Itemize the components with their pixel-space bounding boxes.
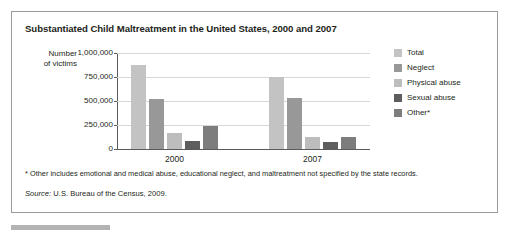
legend-item-neglect: Neglect (394, 60, 494, 75)
legend-swatch (394, 109, 402, 117)
y-axis-title-line-1: Number (25, 49, 77, 59)
y-tick-label: 0 (109, 145, 113, 153)
x-tick-label-2007: 2007 (293, 154, 333, 164)
figure-title: Substantiated Child Maltreatment in the … (25, 23, 337, 34)
gridline (117, 53, 370, 54)
y-tick-label: 500,000 (84, 97, 113, 105)
plot-area: 0250,000500,000750,0001,000,000 20002007 (117, 53, 370, 149)
legend-label: Sexual abuse (407, 93, 455, 102)
legend-swatch (394, 49, 402, 57)
y-tick-mark (114, 149, 117, 150)
legend-swatch (394, 79, 402, 87)
y-tick-mark (114, 77, 117, 78)
legend-label: Other* (407, 108, 430, 117)
y-axis-title-line-2: of victims (25, 59, 77, 69)
legend-label: Physical abuse (407, 78, 461, 87)
bar-sexual-abuse-2000 (185, 141, 200, 149)
y-axis-title: Number of victims (25, 49, 77, 69)
legend-item-total: Total (394, 45, 494, 60)
y-tick-mark (114, 125, 117, 126)
x-axis-line (117, 149, 370, 150)
bar-physical-abuse-2000 (167, 133, 182, 149)
bar-total-2000 (131, 65, 146, 149)
legend-swatch (394, 94, 402, 102)
source-label: Source: (25, 189, 51, 198)
legend: TotalNeglectPhysical abuseSexual abuseOt… (394, 45, 494, 120)
bar-neglect-2000 (149, 99, 164, 149)
legend-label: Total (407, 48, 424, 57)
y-tick-label: 250,000 (84, 121, 113, 129)
legend-item-physical-abuse: Physical abuse (394, 75, 494, 90)
legend-swatch (394, 64, 402, 72)
bar-other-2000 (203, 126, 218, 149)
y-tick-label: 750,000 (84, 73, 113, 81)
bar-neglect-2007 (287, 98, 302, 149)
y-tick-label: 1,000,000 (77, 49, 113, 57)
footnote: * Other includes emotional and medical a… (25, 169, 418, 178)
bar-physical-abuse-2007 (305, 137, 320, 149)
gridline (117, 77, 370, 78)
source-value: U.S. Bureau of the Census, 2009. (51, 189, 167, 198)
bar-total-2007 (269, 77, 284, 149)
legend-item-sexual-abuse: Sexual abuse (394, 90, 494, 105)
legend-item-other: Other* (394, 105, 494, 120)
bottom-rule (11, 225, 110, 230)
bar-other-2007 (341, 137, 356, 149)
y-tick-mark (114, 101, 117, 102)
legend-label: Neglect (407, 63, 434, 72)
source-note: Source: U.S. Bureau of the Census, 2009. (25, 189, 167, 198)
bar-sexual-abuse-2007 (323, 142, 338, 149)
y-tick-mark (114, 53, 117, 54)
x-tick-label-2000: 2000 (155, 154, 195, 164)
figure-card: Substantiated Child Maltreatment in the … (11, 11, 498, 213)
